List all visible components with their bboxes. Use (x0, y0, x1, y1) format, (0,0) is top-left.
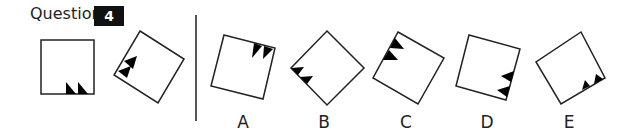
square-shape (211, 35, 275, 99)
option-figure-c[interactable] (373, 32, 444, 104)
stimulus-source (41, 40, 94, 94)
option-label-d[interactable]: D (477, 112, 497, 132)
option-figure-e[interactable] (536, 32, 605, 104)
square-shape (456, 35, 520, 100)
option-label-b[interactable]: B (314, 112, 334, 132)
square-shape (114, 31, 184, 103)
option-figure-a[interactable] (211, 35, 275, 99)
option-label-c[interactable]: C (396, 112, 416, 132)
option-figure-b[interactable] (291, 31, 364, 105)
option-label-a[interactable]: A (233, 112, 253, 132)
option-label-e[interactable]: E (559, 112, 579, 132)
square-shape (536, 32, 605, 104)
stimulus-rotated-example (114, 31, 184, 103)
option-figure-d[interactable] (456, 35, 520, 100)
square-shape (373, 32, 444, 104)
